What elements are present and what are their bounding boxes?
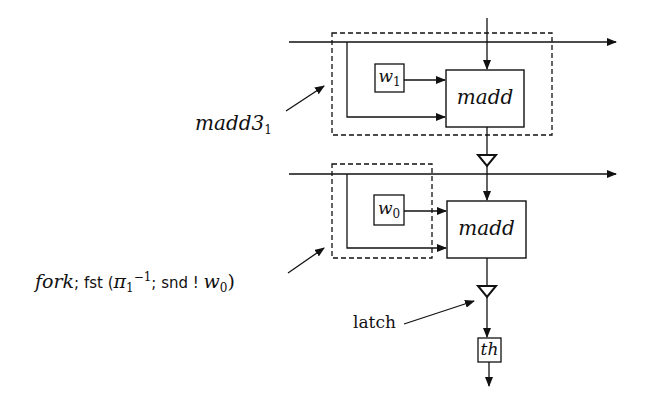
annotation-madd3-1: madd31 [195,111,272,137]
pointer-arrow-latch [404,301,474,324]
th-label: th [478,339,501,359]
pointer-arrow-fork [288,248,324,273]
diagram-canvas [0,0,648,408]
madd-label-0: madd [447,216,526,240]
pointer-arrow-madd3 [286,86,324,111]
latch-icon-2 [478,286,496,297]
annotation-latch: latch [353,312,396,332]
latch-icon-1 [478,155,496,166]
w0-label: w0 [374,198,404,221]
annotation-fork: fork; fst (π1−1; snd ! w0) [35,270,235,295]
w1-label: w1 [375,66,404,89]
madd-label-1: madd [446,85,524,109]
